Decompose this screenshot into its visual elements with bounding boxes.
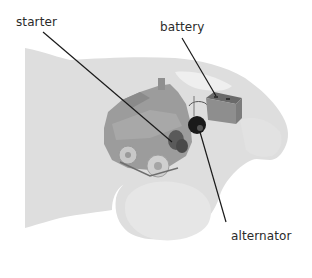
starter-label: starter xyxy=(16,15,57,29)
battery-label: battery xyxy=(160,20,205,34)
diagram-canvas: starter battery alternator xyxy=(0,0,312,278)
alternator-label: alternator xyxy=(231,229,291,243)
